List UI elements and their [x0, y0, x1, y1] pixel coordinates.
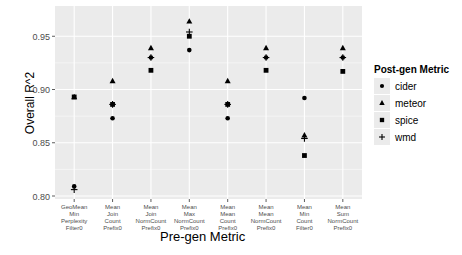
x-tick-label: MeanSumNormCountPrefix0 — [327, 204, 358, 231]
data-point-cider — [302, 96, 307, 101]
x-tick-label: GeoMeanMinPerplexityFilter0 — [61, 204, 87, 231]
triangle-marker-icon — [374, 95, 390, 112]
data-point-cider — [225, 116, 230, 121]
square-marker-icon — [374, 112, 390, 129]
x-tick-label: MeanMeanNormCountPrefix0 — [251, 204, 282, 231]
legend-label: cider — [395, 81, 417, 92]
y-tick-label: 0.95 — [32, 32, 50, 42]
x-tick-label: MeanMinCountFilter0 — [296, 204, 313, 231]
plot-panel — [55, 6, 362, 199]
legend-item-cider: cider — [374, 78, 462, 95]
x-tick-label: MeanMeanCountPrefix0 — [218, 204, 237, 231]
plus-marker-icon — [374, 129, 390, 146]
x-tick-label: MeanJoinNormCountPrefix0 — [136, 204, 167, 231]
y-axis-label: Overall R^2 — [23, 53, 37, 153]
x-tick-label: MeanJoinCountPrefix0 — [103, 204, 122, 231]
legend-title: Post-gen Metric — [374, 64, 462, 75]
legend-item-meteor: meteor — [374, 95, 462, 112]
legend-item-spice: spice — [374, 112, 462, 129]
data-point-spice — [340, 69, 345, 74]
legend-label: wmd — [395, 132, 416, 143]
legend-label: spice — [395, 115, 418, 126]
legend: Post-gen Metric cidermeteorspicewmd — [374, 64, 462, 146]
data-point-spice — [149, 68, 154, 73]
data-point-cider — [187, 48, 192, 53]
x-axis-label: Pre-gen Metric — [160, 229, 380, 244]
y-tick-label: 0.80 — [32, 192, 50, 202]
legend-item-wmd: wmd — [374, 129, 462, 146]
circle-marker-icon — [374, 78, 390, 95]
data-point-spice — [302, 153, 307, 158]
data-point-cider — [110, 116, 115, 121]
legend-label: meteor — [395, 98, 426, 109]
data-point-spice — [264, 68, 269, 73]
data-point-spice — [72, 95, 77, 100]
x-tick-label: MeanMaxNormCountPrefix0 — [174, 204, 205, 231]
